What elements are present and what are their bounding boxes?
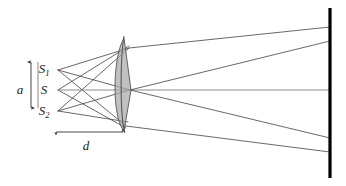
label-separation-a: a (17, 82, 24, 97)
label-source-lower: S2 (39, 103, 51, 120)
label-distance-d-base: d (83, 138, 90, 153)
label-distance-d: d (83, 138, 90, 153)
emergent-ray-bundle (126, 27, 330, 152)
ray-out-lower (130, 90, 330, 138)
label-separation-a-base: a (17, 82, 24, 97)
ray-out-top (129, 27, 330, 48)
ray-diagram-svg: S1 S S2 a d (0, 0, 346, 186)
label-source-upper: S1 (39, 61, 50, 78)
separation-dimension-a (31, 62, 38, 108)
ray-out-bottom (126, 126, 330, 152)
label-source-center-base: S (41, 82, 48, 97)
ray-out-upper (130, 41, 330, 90)
label-source-center: S (41, 82, 48, 97)
figure-container: S1 S S2 a d (0, 0, 346, 186)
label-source-upper-sub: 1 (45, 68, 49, 78)
label-source-lower-sub: 2 (45, 110, 50, 120)
